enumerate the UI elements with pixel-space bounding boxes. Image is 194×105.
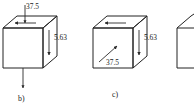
figure-container: 37.5 5.63 b) 37.5 5.63 c)	[0, 0, 194, 105]
technical-cube-diagram: 37.5 5.63 b) 37.5 5.63 c)	[0, 0, 194, 105]
panel-b-right-label: 5.63	[54, 33, 67, 42]
panel-b-caption: b)	[18, 94, 25, 103]
panel-c-front-label: 37.5	[106, 58, 119, 67]
panel-c-caption: c)	[112, 90, 118, 99]
panel-c-right-label: 5.63	[144, 33, 157, 42]
panel-b-cube-front-face	[3, 28, 43, 68]
panel-d-cube-front-face	[177, 28, 194, 68]
panel-b-top-label: 37.5	[26, 2, 39, 11]
